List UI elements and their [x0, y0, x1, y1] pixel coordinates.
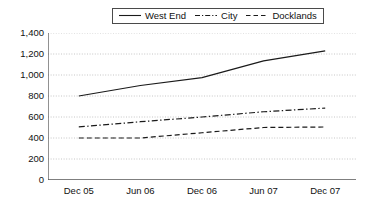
x-axis-labels: Dec 05Jun 06Dec 06Jun 07Dec 07	[48, 186, 356, 200]
legend-item-docklands: Docklands	[246, 11, 316, 21]
y-tick-label: 600	[28, 112, 44, 122]
x-tick-label: Dec 06	[187, 186, 217, 196]
series-line-docklands	[79, 127, 325, 138]
x-tick-label: Dec 07	[310, 186, 340, 196]
series-line-city	[79, 108, 325, 127]
legend-line-dashdot-icon	[195, 12, 217, 19]
y-tick-label: 400	[28, 133, 44, 143]
y-tick-label: 800	[28, 91, 44, 101]
y-tick-label: 200	[28, 154, 44, 164]
y-tick-label: 1,000	[20, 70, 44, 80]
y-tick-label: 0	[39, 175, 44, 185]
legend-line-solid-icon	[119, 12, 141, 19]
legend-item-city: City	[195, 11, 237, 21]
legend-item-west-end: West End	[119, 11, 186, 21]
x-tick-label: Jun 07	[249, 186, 278, 196]
x-tick-label: Dec 05	[64, 186, 94, 196]
chart-legend: West End City Docklands	[112, 8, 324, 24]
legend-line-dashed-icon	[246, 12, 268, 19]
y-axis-labels: 1,4001,2001,0008006004002000	[0, 0, 44, 207]
y-tick-label: 1,400	[20, 28, 44, 38]
line-chart: West End City Docklands 1,4001,2001,0008…	[0, 0, 374, 207]
y-tick-label: 1,200	[20, 49, 44, 59]
legend-label-west-end: West End	[145, 11, 186, 21]
x-tick-label: Jun 06	[126, 186, 155, 196]
legend-label-city: City	[221, 11, 237, 21]
plot-area	[48, 33, 356, 180]
legend-label-docklands: Docklands	[272, 11, 316, 21]
series-line-west-end	[79, 51, 325, 96]
